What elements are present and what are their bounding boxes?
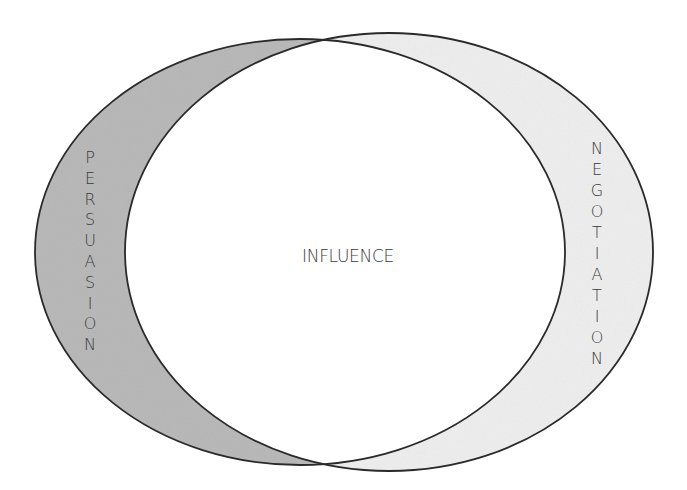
- label-letter: T: [592, 223, 602, 242]
- label-letter: R: [84, 190, 95, 209]
- label-letter: A: [592, 265, 603, 284]
- label-letter: A: [85, 252, 96, 271]
- label-letter: T: [592, 286, 602, 305]
- label-letter: I: [595, 307, 600, 326]
- label-letter: S: [85, 273, 95, 292]
- label-letter: O: [84, 314, 97, 333]
- label-letter: E: [85, 169, 95, 188]
- label-letter: I: [88, 294, 93, 313]
- label-letter: G: [591, 181, 603, 200]
- label-letter: P: [85, 148, 95, 167]
- label-letter: N: [591, 139, 603, 158]
- label-letter: I: [595, 244, 600, 263]
- label-letter: S: [85, 210, 95, 229]
- label-letter: E: [592, 160, 602, 179]
- venn-diagram: INFLUENCE PERSUASION NEGOTIATION: [0, 0, 687, 490]
- label-letter: O: [591, 202, 604, 221]
- label-letter: N: [84, 335, 96, 354]
- label-letter: N: [591, 349, 603, 368]
- influence-label: INFLUENCE: [302, 246, 394, 266]
- label-letter: O: [591, 328, 604, 347]
- persuasion-label: PERSUASION: [84, 148, 97, 354]
- label-letter: U: [84, 231, 96, 250]
